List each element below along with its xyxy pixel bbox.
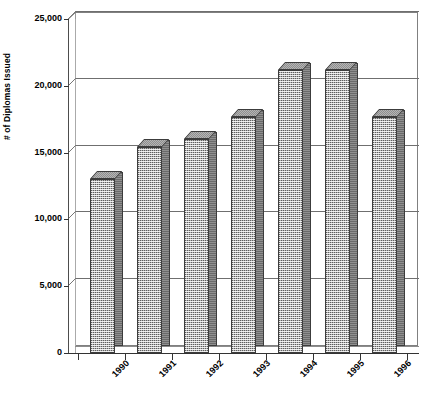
x-axis-tick-labels: 1990199119921993199419951996 [0, 358, 433, 401]
bar-side-face [256, 110, 264, 346]
gridline [75, 11, 419, 12]
x-axis-tick-label: 1996 [392, 358, 413, 379]
y-axis-tick-label: 25,000 [18, 14, 62, 23]
y-axis-tick [64, 19, 69, 20]
bar-side-face [115, 172, 123, 346]
bar-side-face [397, 110, 405, 346]
x-axis-line [68, 353, 419, 354]
bar-front-face [372, 117, 397, 353]
gridline-depth-connector [68, 145, 76, 153]
y-axis-tick [64, 153, 69, 154]
bar-1996 [372, 109, 405, 353]
bar-1995 [325, 62, 358, 353]
x-axis-tick-label: 1990 [110, 358, 131, 379]
bar-front-face [137, 147, 162, 353]
bar-front-face [325, 70, 350, 353]
bar-1991 [137, 139, 170, 353]
y-axis-tick-label: 10,000 [18, 214, 62, 223]
bar-1990 [90, 171, 123, 353]
x-axis-tick-label: 1993 [251, 358, 272, 379]
y-axis-tick-labels: 05,00010,00015,00020,00025,000 [12, 0, 62, 401]
bar-1994 [278, 62, 311, 353]
gridline-depth-connector [68, 211, 76, 219]
x-axis-tick-label: 1995 [345, 358, 366, 379]
x-axis-tick-label: 1992 [204, 358, 225, 379]
gridline-depth-connector [68, 278, 76, 286]
bar-side-face [350, 63, 358, 346]
y-axis-tick [64, 286, 69, 287]
gridline-depth-connector [68, 78, 76, 86]
y-axis-line [68, 19, 69, 354]
bar-front-face [184, 139, 209, 353]
gridline [75, 78, 419, 79]
bar-1993 [231, 109, 264, 353]
x-axis-tick-label: 1994 [298, 358, 319, 379]
y-axis-tick-label: 5,000 [18, 281, 62, 290]
y-axis-tick [64, 353, 69, 354]
bar-1992 [184, 131, 217, 353]
y-axis-tick-label: 15,000 [18, 148, 62, 157]
bar-front-face [278, 70, 303, 353]
bar-side-face [209, 132, 217, 346]
chart-left-wall [68, 19, 76, 353]
plot-area [68, 19, 418, 353]
bar-front-face [231, 117, 256, 353]
bar-chart: # of Diplomas Issued 05,00010,00015,0002… [0, 0, 433, 401]
bar-front-face [90, 179, 115, 353]
y-axis-tick-label: 20,000 [18, 81, 62, 90]
y-axis-tick [64, 219, 69, 220]
y-axis-tick [64, 86, 69, 87]
y-axis-tick-label: 0 [18, 348, 62, 357]
bar-side-face [303, 63, 311, 346]
gridline-depth-connector [68, 11, 76, 19]
bar-side-face [162, 140, 170, 346]
x-axis-tick-label: 1991 [157, 358, 178, 379]
